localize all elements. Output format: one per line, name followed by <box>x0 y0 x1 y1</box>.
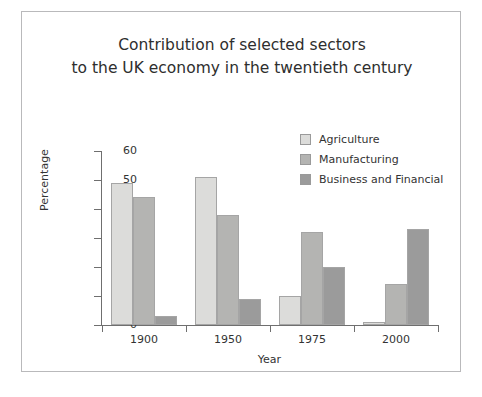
bar <box>323 267 345 325</box>
bar <box>195 177 217 325</box>
x-axis-title: Year <box>101 353 438 366</box>
x-axis-tick <box>354 325 355 332</box>
y-axis-title: Percentage <box>38 149 51 211</box>
bar <box>133 197 155 325</box>
legend-swatch-icon <box>300 134 311 145</box>
legend-label: Agriculture <box>319 133 380 146</box>
x-axis-tick <box>270 325 271 332</box>
x-axis-category-label: 1975 <box>282 333 342 346</box>
x-axis-tick <box>186 325 187 332</box>
bar <box>301 232 323 325</box>
plot-area: Percentage Year 0102030405060 1900195019… <box>80 151 440 327</box>
bar <box>239 299 261 325</box>
x-axis-tick <box>438 325 439 332</box>
bar <box>279 296 301 325</box>
bar <box>385 284 407 325</box>
chart-frame: Contribution of selected sectors to the … <box>21 11 461 372</box>
bar <box>407 229 429 325</box>
x-axis-category-label: 2000 <box>366 333 426 346</box>
legend-item-agriculture: Agriculture <box>300 130 443 148</box>
bar <box>111 183 133 325</box>
chart-title-line-2: to the UK economy in the twentieth centu… <box>22 57 462 80</box>
bar <box>217 215 239 325</box>
scan-artifact-text <box>150 0 450 8</box>
bar <box>363 322 385 325</box>
bar <box>155 316 177 325</box>
bar-series-container <box>102 151 438 325</box>
x-axis-tick <box>102 325 103 332</box>
chart-page: Contribution of selected sectors to the … <box>0 0 482 397</box>
x-axis-category-label: 1900 <box>114 333 174 346</box>
chart-title: Contribution of selected sectors to the … <box>22 34 462 80</box>
x-axis-category-label: 1950 <box>198 333 258 346</box>
chart-title-line-1: Contribution of selected sectors <box>118 36 366 54</box>
